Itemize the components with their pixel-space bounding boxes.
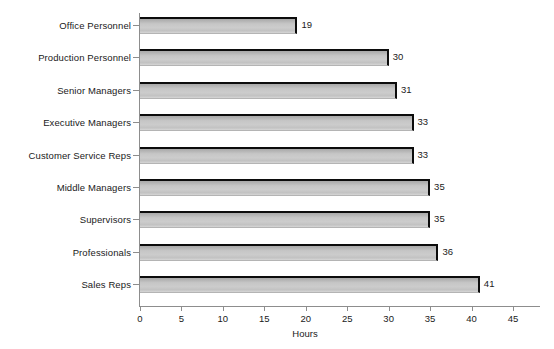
x-axis-tick xyxy=(347,306,348,311)
category-label: Professionals xyxy=(0,247,131,259)
x-axis-tick-label: 20 xyxy=(291,313,321,325)
x-axis-tick-label: 25 xyxy=(332,313,362,325)
bar xyxy=(140,244,438,261)
bar-row: Production Personnel30 xyxy=(0,47,554,75)
x-axis-tick xyxy=(223,306,224,311)
y-axis-tick xyxy=(133,155,139,156)
category-label: Office Personnel xyxy=(0,20,131,32)
bar xyxy=(140,17,297,34)
bar-row: Professionals36 xyxy=(0,242,554,270)
bar-value-label: 33 xyxy=(418,149,429,161)
bar xyxy=(140,147,414,164)
x-axis-tick-label: 35 xyxy=(415,313,445,325)
bar xyxy=(140,82,397,99)
x-axis-tick xyxy=(472,306,473,311)
bar-row: Office Personnel19 xyxy=(0,15,554,43)
bar-value-label: 30 xyxy=(393,51,404,63)
x-axis-tick-label: 45 xyxy=(498,313,528,325)
x-axis-tick-label: 10 xyxy=(208,313,238,325)
y-axis-tick xyxy=(133,25,139,26)
bar xyxy=(140,49,389,66)
x-axis-tick-label: 0 xyxy=(125,313,155,325)
x-axis-tick xyxy=(306,306,307,311)
y-axis-tick xyxy=(133,252,139,253)
x-axis-tick-label: 5 xyxy=(166,313,196,325)
bar-value-label: 41 xyxy=(484,278,495,290)
bar-row: Senior Managers31 xyxy=(0,80,554,108)
bar xyxy=(140,114,414,131)
category-label: Middle Managers xyxy=(0,182,131,194)
y-axis-tick xyxy=(133,57,139,58)
bar-value-label: 31 xyxy=(401,84,412,96)
x-axis-tick xyxy=(181,306,182,311)
x-axis-tick xyxy=(264,306,265,311)
y-axis-tick xyxy=(133,187,139,188)
bar-value-label: 36 xyxy=(442,246,453,258)
x-axis-tick xyxy=(513,306,514,311)
bar xyxy=(140,211,430,228)
bar-chart: Office Personnel19Production Personnel30… xyxy=(0,0,554,349)
bar-row: Supervisors35 xyxy=(0,209,554,237)
bar-row: Sales Reps41 xyxy=(0,274,554,302)
y-axis-tick xyxy=(133,284,139,285)
x-axis-tick-label: 30 xyxy=(374,313,404,325)
bar-row: Customer Service Reps33 xyxy=(0,145,554,173)
x-axis-title: Hours xyxy=(280,328,330,340)
bar-value-label: 19 xyxy=(301,19,312,31)
x-axis-tick xyxy=(140,306,141,311)
y-axis-tick xyxy=(133,122,139,123)
x-axis-line xyxy=(139,306,540,307)
bar xyxy=(140,276,480,293)
x-axis-tick xyxy=(389,306,390,311)
category-label: Production Personnel xyxy=(0,52,131,64)
category-label: Senior Managers xyxy=(0,85,131,97)
category-label: Executive Managers xyxy=(0,117,131,129)
bar-value-label: 35 xyxy=(434,213,445,225)
bar-value-label: 35 xyxy=(434,181,445,193)
category-label: Customer Service Reps xyxy=(0,150,131,162)
y-axis-tick xyxy=(133,219,139,220)
x-axis-tick-label: 40 xyxy=(457,313,487,325)
bar-value-label: 33 xyxy=(418,116,429,128)
bar-row: Middle Managers35 xyxy=(0,177,554,205)
y-axis-tick xyxy=(133,90,139,91)
category-label: Sales Reps xyxy=(0,279,131,291)
x-axis-tick xyxy=(430,306,431,311)
x-axis-tick-label: 15 xyxy=(249,313,279,325)
bar-row: Executive Managers33 xyxy=(0,112,554,140)
bar xyxy=(140,179,430,196)
category-label: Supervisors xyxy=(0,214,131,226)
